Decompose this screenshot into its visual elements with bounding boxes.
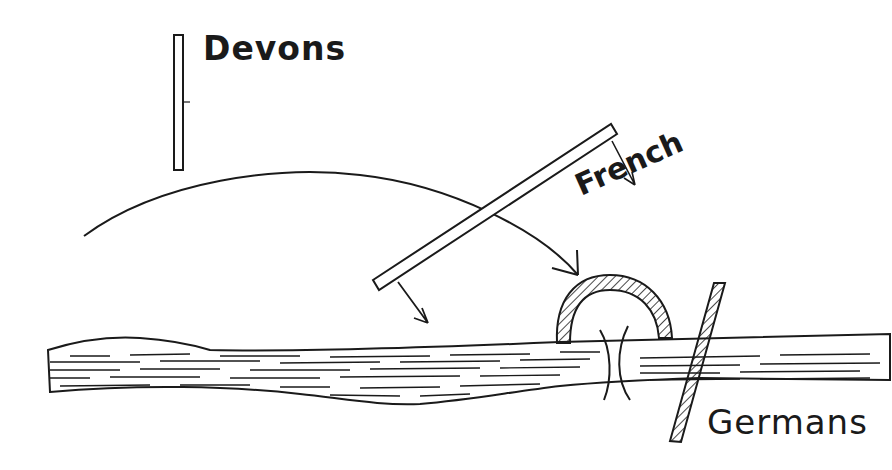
battle-diagram: Devons French Germans: [0, 0, 892, 470]
river: [48, 334, 890, 404]
devons-line: [174, 35, 183, 170]
german-salient: [557, 275, 672, 343]
label-germans: Germans: [707, 402, 868, 442]
devons-advance-arc: [84, 172, 578, 275]
label-devons: Devons: [203, 29, 346, 68]
advance-arrow-icon: [398, 282, 428, 323]
label-french: French: [570, 124, 689, 202]
